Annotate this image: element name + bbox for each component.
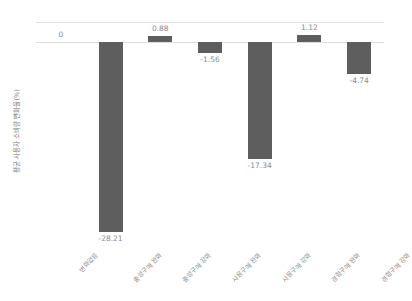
plot-area: 0-28.210.88-1.56-17.341.12-4.74	[36, 22, 384, 244]
bar-group: 0.88	[135, 22, 185, 244]
x-axis-label: 충성구매 강화	[179, 250, 213, 284]
bar	[347, 42, 371, 74]
x-axis-label: 충성구매 완화	[130, 250, 164, 284]
x-axis-label: 사용구매 완화	[229, 250, 263, 284]
bar-group: -4.74	[334, 22, 384, 244]
bar-group: 1.12	[285, 22, 335, 244]
bar-group: 0	[36, 22, 86, 244]
bar	[297, 35, 321, 43]
bar-value-label: -1.56	[200, 55, 219, 64]
x-axis-label: 경험구매 강화	[378, 250, 412, 284]
bar-value-label: -17.34	[248, 161, 272, 170]
bar	[148, 36, 172, 42]
y-axis-title: 평균 사용자 소비량 변화율(%)	[11, 71, 21, 191]
bar	[248, 42, 272, 159]
bar-group: -1.56	[185, 22, 235, 244]
x-axis-label: 사용구매 강화	[279, 250, 313, 284]
bar-group: -28.21	[86, 22, 136, 244]
bar-value-label: 1.12	[301, 23, 318, 32]
bar-value-label: -28.21	[98, 234, 122, 243]
bar	[198, 42, 222, 52]
bar-value-label: -4.74	[349, 76, 368, 85]
x-axis-label: 변화없음	[76, 250, 100, 274]
x-axis-label: 경험구매 완화	[329, 250, 363, 284]
bar	[99, 42, 123, 232]
bar-value-label: 0	[58, 30, 63, 39]
bar-group: -17.34	[235, 22, 285, 244]
bar-value-label: 0.88	[152, 24, 169, 33]
